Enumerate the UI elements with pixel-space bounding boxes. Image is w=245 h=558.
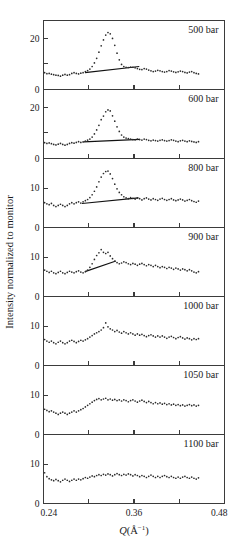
data-point [107,170,109,172]
data-point [148,140,150,142]
data-point [71,271,73,273]
data-point [155,265,157,267]
data-point [175,404,177,406]
data-point [168,336,170,338]
data-point [109,474,111,476]
data-point [87,139,89,141]
data-point [98,331,100,333]
data-point [60,270,62,272]
data-point [87,199,89,201]
data-point [107,326,109,328]
data-point [132,399,134,401]
data-point [44,472,46,474]
data-point [51,143,53,145]
data-point [155,336,157,338]
data-point [143,475,145,477]
y-tick-label: 0 [35,430,40,440]
data-point [186,141,188,143]
data-point [82,72,84,74]
data-point [189,269,191,271]
data-point [148,475,150,477]
data-point [182,268,184,270]
data-point [105,34,107,36]
data-point [71,202,73,204]
data-point [94,400,96,402]
data-point [177,476,179,478]
data-point [53,411,55,413]
x-axis-title-close: ) [145,525,149,537]
data-point [198,338,200,340]
data-point [64,273,66,275]
data-point [139,400,141,402]
data-point [137,138,139,140]
data-point [121,194,123,196]
data-point [137,333,139,335]
data-point [103,115,105,117]
data-point [69,412,71,414]
data-point [53,342,55,344]
data-series [44,472,200,483]
data-point [114,399,116,401]
data-point [114,183,116,185]
data-point [62,205,64,207]
data-point [53,272,55,274]
data-point [159,140,161,142]
data-point [116,126,118,128]
data-point [177,199,179,201]
y-tick-label: 10 [30,321,40,331]
data-point [173,199,175,201]
data-point [118,399,120,401]
data-point [157,266,159,268]
data-point [69,203,71,205]
data-point [109,328,111,330]
data-point [173,337,175,339]
data-point [148,401,150,403]
data-point [78,73,80,75]
data-point [182,71,184,73]
data-point [180,140,182,142]
data-point [121,475,123,477]
data-point [139,68,141,70]
data-point [193,477,195,479]
data-point [112,38,114,40]
data-point [64,343,66,345]
data-point [53,144,55,146]
y-tick-label: 10 [30,459,40,469]
data-point [139,198,141,200]
data-point [141,399,143,401]
data-point [57,414,59,416]
data-point [195,405,197,407]
data-point [75,202,77,204]
data-point [152,403,154,405]
data-point [173,403,175,405]
data-point [186,199,188,201]
data-point [175,140,177,142]
data-point [66,342,68,344]
data-point [121,64,123,66]
data-point [62,411,64,413]
data-point [175,72,177,74]
data-point [177,141,179,143]
data-point [66,144,68,146]
data-point [55,74,57,76]
data-point [150,265,152,267]
data-point [55,273,57,275]
data-point [173,477,175,479]
data-point [80,339,82,341]
data-point [53,74,55,76]
data-point [166,268,168,270]
data-point [48,411,50,413]
data-point [48,341,50,343]
data-point [184,200,186,202]
data-point [127,198,129,200]
data-point [195,272,197,274]
data-point [98,51,100,53]
data-point [80,271,82,273]
data-point [157,335,159,337]
data-point [105,397,107,399]
data-point [191,200,193,202]
data-point [105,111,107,113]
data-point [159,402,161,404]
data-point [51,479,53,481]
data-point [130,400,132,402]
